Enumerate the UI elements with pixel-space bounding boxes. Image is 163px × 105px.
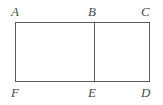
vertex-label-b: B [88, 5, 96, 18]
figure-lines [0, 0, 163, 105]
vertex-label-d: D [141, 86, 150, 99]
vertex-label-c: C [141, 5, 150, 18]
outer-rectangle [16, 23, 150, 82]
vertex-label-e: E [88, 86, 96, 99]
geometry-figure: A B C F E D [0, 0, 163, 105]
vertex-label-f: F [11, 86, 19, 99]
vertex-label-a: A [11, 5, 19, 18]
